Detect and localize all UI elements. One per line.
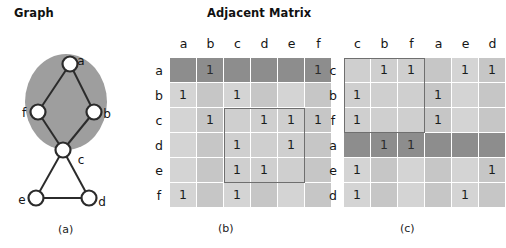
row-header-e: e — [326, 163, 340, 178]
graph-node-label-b: b — [103, 107, 111, 121]
matrix-cell: 1 — [344, 83, 371, 108]
matrix-cell — [251, 58, 278, 83]
matrix-cell — [251, 133, 278, 158]
matrix-cell — [197, 158, 224, 183]
column-header-e: e — [285, 36, 299, 51]
graph-node-e — [29, 191, 44, 206]
graph-svg: afbced — [8, 46, 138, 218]
graph-node-b — [87, 105, 102, 120]
matrix-cell — [452, 133, 479, 158]
matrix-cell — [170, 108, 197, 133]
row-header-d: d — [326, 188, 340, 203]
matrix-cell: 1 — [344, 183, 371, 208]
caption-c: (c) — [400, 222, 415, 235]
matrix-cell — [170, 58, 197, 83]
graph-node-a — [63, 57, 78, 72]
matrix-cell: 1 — [452, 58, 479, 83]
row-header-c: c — [152, 113, 166, 128]
row-header-e: e — [152, 163, 166, 178]
matrix-cell — [452, 158, 479, 183]
row-header-a: a — [152, 63, 166, 78]
matrix-cell — [371, 158, 398, 183]
graph-node-label-d: d — [98, 195, 106, 209]
column-header-f: f — [405, 36, 419, 51]
matrix-cell — [224, 58, 251, 83]
matrix-cell: 1 — [170, 183, 197, 208]
matrix-cell — [425, 58, 452, 83]
matrix-cell: 1 — [278, 108, 305, 133]
column-header-c: c — [231, 36, 245, 51]
matrix-cell — [398, 183, 425, 208]
row-header-c: c — [326, 63, 340, 78]
matrix-cell — [251, 183, 278, 208]
matrix-cell: 1 — [398, 58, 425, 83]
graph-heading: Graph — [14, 6, 54, 20]
matrix-cell — [479, 183, 506, 208]
column-header-a: a — [177, 36, 191, 51]
matrix-cell: 1 — [224, 133, 251, 158]
column-header-d: d — [486, 36, 500, 51]
row-header-a: a — [326, 138, 340, 153]
matrix-cell: 1 — [452, 183, 479, 208]
matrix-cell — [371, 83, 398, 108]
graph-node-label-e: e — [18, 193, 25, 207]
column-header-b: b — [378, 36, 392, 51]
matrix-cell — [197, 83, 224, 108]
matrix-cell — [479, 133, 506, 158]
matrix-cell — [224, 108, 251, 133]
matrix-cell — [479, 108, 506, 133]
matrix-cell — [197, 183, 224, 208]
matrix-cell: 1 — [425, 83, 452, 108]
row-header-b: b — [326, 88, 340, 103]
matrix-cell: 1 — [224, 158, 251, 183]
matrix-cell — [425, 183, 452, 208]
graph-node-label-a: a — [77, 54, 84, 68]
matrix-cell — [425, 158, 452, 183]
matrix-cell: 1 — [224, 83, 251, 108]
matrix-cell: 1 — [251, 108, 278, 133]
matrix-cell: 1 — [251, 158, 278, 183]
column-header-b: b — [204, 36, 218, 51]
matrix-cell — [479, 83, 506, 108]
column-header-a: a — [432, 36, 446, 51]
matrix-cell: 1 — [197, 58, 224, 83]
matrix-b: abcdefabcdef11111111111111 — [150, 36, 332, 208]
column-header-e: e — [459, 36, 473, 51]
matrix-cell — [398, 83, 425, 108]
matrix-cell — [398, 108, 425, 133]
matrix-cell — [197, 133, 224, 158]
matrix-cell: 1 — [278, 133, 305, 158]
graph-node-d — [82, 191, 97, 206]
graph-node-f — [31, 105, 46, 120]
matrix-cell: 1 — [371, 58, 398, 83]
matrix-cell: 1 — [344, 108, 371, 133]
matrix-cell — [344, 58, 371, 83]
graph-diagram: afbced — [8, 46, 138, 218]
matrix-cell: 1 — [197, 108, 224, 133]
matrix-cell — [344, 133, 371, 158]
matrix-cell: 1 — [170, 83, 197, 108]
graph-node-c — [56, 143, 71, 158]
matrix-cell — [251, 83, 278, 108]
row-header-f: f — [326, 113, 340, 128]
matrix-cell — [278, 183, 305, 208]
graph-node-label-c: c — [78, 153, 85, 167]
matrix-cell — [278, 58, 305, 83]
matrix-cell — [398, 158, 425, 183]
matrix-cell — [278, 158, 305, 183]
matrix-cell — [371, 183, 398, 208]
caption-a: (a) — [58, 223, 73, 236]
matrix-cell — [170, 158, 197, 183]
matrix-cell — [371, 108, 398, 133]
row-header-b: b — [152, 88, 166, 103]
matrix-cell — [452, 83, 479, 108]
caption-b: (b) — [218, 222, 234, 235]
matrix-cell: 1 — [398, 133, 425, 158]
row-header-f: f — [152, 188, 166, 203]
matrix-cell: 1 — [479, 58, 506, 83]
row-header-d: d — [152, 138, 166, 153]
matrix-cell — [170, 133, 197, 158]
matrix-cell — [425, 133, 452, 158]
matrix-cell — [278, 83, 305, 108]
